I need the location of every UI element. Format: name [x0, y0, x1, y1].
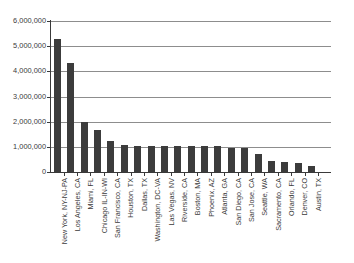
bar: [188, 146, 195, 172]
x-axis-tick-mark: [291, 172, 292, 176]
x-axis-label-wrapper: San Jose, CA: [248, 178, 255, 222]
x-axis-label-wrapper: Riverside, CA: [181, 178, 188, 222]
bar: [148, 146, 155, 172]
x-axis-tick-mark: [197, 172, 198, 176]
x-axis-tick-label: Houston, TX: [127, 178, 134, 218]
x-axis-tick-label: Austin, TX: [315, 178, 322, 211]
x-axis-label-wrapper: Denver, CO: [301, 178, 308, 216]
y-axis-tick-mark: [47, 97, 51, 98]
x-axis-tick-label: Los Angeles, CA: [74, 178, 81, 231]
x-axis-label-wrapper: Seattle, WA: [261, 178, 268, 216]
bar: [228, 148, 235, 172]
x-axis-tick-label: Atlanta, GA: [221, 178, 228, 215]
x-axis-tick-label: Miami, FL: [87, 178, 94, 210]
bar: [281, 162, 288, 172]
bar: [54, 39, 61, 172]
x-axis-tick-label: Sacramento, CA: [275, 178, 282, 231]
x-axis-label-wrapper: Orlando, FL: [288, 178, 295, 216]
x-axis-tick-label: New York, NY-NJ-PA: [61, 178, 68, 244]
x-axis-tick-mark: [90, 172, 91, 176]
x-axis-tick-mark: [251, 172, 252, 176]
bar: [241, 148, 248, 172]
x-axis-tick-label: Orlando, FL: [288, 178, 295, 216]
x-axis-label-wrapper: New York, NY-NJ-PA: [61, 178, 68, 244]
x-axis-tick-label: Washington, DC-VA: [154, 178, 161, 242]
y-axis-tick-label: 6,000,000: [13, 17, 46, 24]
y-axis-tick-label: 0: [42, 168, 46, 175]
y-axis-tick-label: 5,000,000: [13, 42, 46, 49]
y-axis-tick-label: 2,000,000: [13, 118, 46, 125]
x-axis-tick-mark: [171, 172, 172, 176]
bar: [121, 145, 128, 172]
bar: [295, 163, 302, 172]
bar: [268, 161, 275, 172]
x-axis-tick-label: Las Vegas, NV: [168, 178, 175, 226]
bar: [214, 146, 221, 172]
x-axis-tick-mark: [131, 172, 132, 176]
x-axis-tick-mark: [117, 172, 118, 176]
x-axis-tick-mark: [211, 172, 212, 176]
y-axis-tick-label: 4,000,000: [13, 68, 46, 75]
y-axis-tick-mark: [47, 46, 51, 47]
y-axis-tick-mark: [47, 122, 51, 123]
x-axis-tick-mark: [64, 172, 65, 176]
x-axis-label-wrapper: Sacramento, CA: [275, 178, 282, 231]
x-axis-tick-mark: [318, 172, 319, 176]
bars-layer: [50, 21, 331, 172]
y-axis-tick-mark: [47, 172, 51, 173]
x-axis-tick-label: Seattle, WA: [261, 178, 268, 216]
x-axis-label-wrapper: Chicago IL-IN-WI: [101, 178, 108, 233]
y-axis-tick-label: 3,000,000: [13, 93, 46, 100]
bar-chart: 01,000,0002,000,0003,000,0004,000,0005,0…: [0, 0, 354, 263]
x-axis-tick-mark: [184, 172, 185, 176]
bar: [161, 146, 168, 172]
bar: [174, 146, 181, 172]
x-axis-tick-mark: [238, 172, 239, 176]
x-axis-tick-label: Boston, MA: [194, 178, 201, 215]
x-axis-label-wrapper: Houston, TX: [127, 178, 134, 218]
bar: [255, 154, 262, 172]
x-axis-tick-mark: [157, 172, 158, 176]
x-axis-tick-labels: New York, NY-NJ-PALos Angeles, CAMiami, …: [50, 178, 340, 263]
x-axis-tick-mark: [77, 172, 78, 176]
x-axis-tick-label: Dallas, TX: [141, 178, 148, 211]
x-axis-label-wrapper: Phoenix, AZ: [208, 178, 215, 217]
x-axis-tick-label: Riverside, CA: [181, 178, 188, 222]
x-axis-label-wrapper: Austin, TX: [315, 178, 322, 211]
x-axis-tick-mark: [144, 172, 145, 176]
x-axis-tick-label: Phoenix, AZ: [208, 178, 215, 217]
y-axis-tick-labels: 01,000,0002,000,0003,000,0004,000,0005,0…: [0, 21, 46, 172]
x-axis-tick-marks: [50, 172, 331, 177]
x-axis-label-wrapper: Boston, MA: [194, 178, 201, 215]
x-axis-tick-mark: [264, 172, 265, 176]
bar: [67, 63, 74, 172]
x-axis-tick-label: San Francisco, CA: [114, 178, 121, 238]
x-axis-tick-mark: [224, 172, 225, 176]
x-axis-tick-label: Chicago IL-IN-WI: [101, 178, 108, 233]
x-axis-tick-label: San Jose, CA: [248, 178, 255, 222]
bar: [94, 130, 101, 172]
y-axis-tick-label: 1,000,000: [13, 143, 46, 150]
bar: [134, 146, 141, 172]
x-axis-label-wrapper: Los Angeles, CA: [74, 178, 81, 231]
x-axis-tick-mark: [305, 172, 306, 176]
y-axis-tick-mark: [47, 71, 51, 72]
x-axis-tick-label: Denver, CO: [301, 178, 308, 216]
bar: [201, 146, 208, 172]
x-axis-label-wrapper: San Diego, CA: [235, 178, 242, 226]
x-axis-label-wrapper: Miami, FL: [87, 178, 94, 210]
x-axis-label-wrapper: Atlanta, GA: [221, 178, 228, 215]
x-axis-tick-mark: [278, 172, 279, 176]
x-axis-label-wrapper: Dallas, TX: [141, 178, 148, 211]
x-axis-label-wrapper: San Francisco, CA: [114, 178, 121, 238]
y-axis-tick-mark: [47, 21, 51, 22]
x-axis-tick-mark: [104, 172, 105, 176]
bar: [107, 141, 114, 172]
bar: [81, 122, 88, 172]
x-axis-tick-label: San Diego, CA: [235, 178, 242, 226]
x-axis-label-wrapper: Las Vegas, NV: [168, 178, 175, 226]
x-axis-label-wrapper: Washington, DC-VA: [154, 178, 161, 242]
y-axis-tick-mark: [47, 147, 51, 148]
